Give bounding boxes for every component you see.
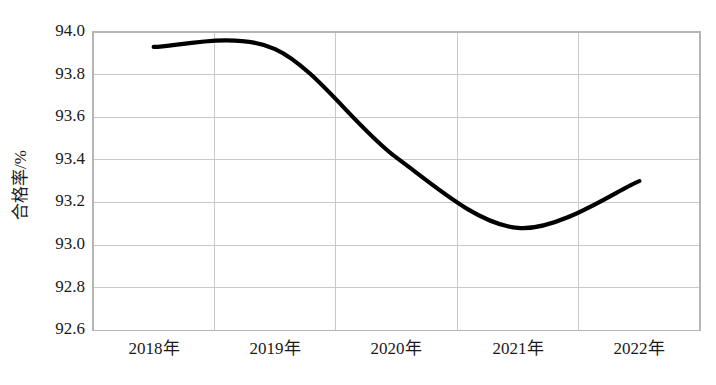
ytick-label-93-2: 93.2 (55, 191, 85, 210)
xtick-label-2019: 2019年 (250, 339, 301, 358)
ytick-label-93-8: 93.8 (55, 64, 85, 83)
xtick-label-2018: 2018年 (129, 339, 180, 358)
ytick-label-94-0: 94.0 (55, 21, 85, 40)
ytick-label-93-6: 93.6 (55, 106, 85, 125)
ytick-label-93-0: 93.0 (55, 234, 85, 253)
chart-canvas: 94.0 93.8 93.6 93.4 93.2 93.0 92.8 92.6 … (0, 0, 716, 385)
xtick-label-2020: 2020年 (371, 339, 422, 358)
ytick-label-93-4: 93.4 (55, 149, 85, 168)
ytick-label-92-8: 92.8 (55, 277, 85, 296)
xtick-label-2022: 2022年 (614, 339, 665, 358)
ytick-label-92-6: 92.6 (55, 319, 85, 338)
line-chart: 94.0 93.8 93.6 93.4 93.2 93.0 92.8 92.6 … (0, 0, 716, 385)
xtick-label-2021: 2021年 (493, 339, 544, 358)
chart-background (0, 0, 716, 385)
y-axis-title: 合格率/% (11, 150, 30, 220)
